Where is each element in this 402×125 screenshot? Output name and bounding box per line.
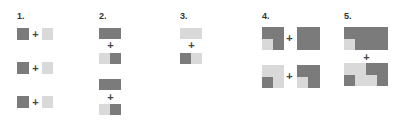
dark-right-column — [377, 75, 388, 86]
dark-half — [180, 53, 191, 64]
dark-square-with-light-corner — [262, 27, 284, 50]
mixed-rect — [344, 63, 388, 86]
light-half — [99, 104, 110, 115]
dark-bottom-left — [344, 75, 355, 86]
light-square — [42, 96, 53, 108]
plus-icon: + — [361, 52, 372, 63]
light-half — [191, 53, 202, 64]
light-square — [42, 62, 53, 74]
dark-rect — [99, 28, 121, 39]
light-rect — [180, 28, 202, 39]
plus-icon: + — [284, 71, 295, 82]
dark-square — [17, 96, 29, 108]
dark-rect — [99, 79, 121, 90]
dark-rect-with-light-corner — [344, 27, 388, 50]
dark-square — [17, 62, 29, 74]
dark-half — [110, 53, 121, 64]
light-corner — [297, 77, 308, 88]
section-3-label: 3. — [180, 11, 188, 21]
plus-icon: + — [30, 29, 41, 40]
plus-icon: + — [284, 33, 295, 44]
dark-square-with-light-corner — [297, 65, 320, 88]
dark-corner — [262, 77, 273, 88]
dark-half — [110, 104, 121, 115]
plus-icon: + — [30, 63, 41, 74]
dark-square — [17, 28, 29, 40]
section-1-label: 1. — [17, 11, 25, 21]
plus-icon: + — [186, 40, 197, 51]
dark-top-right — [366, 63, 388, 75]
light-corner — [262, 39, 273, 50]
section-2-label: 2. — [99, 11, 107, 21]
plus-icon: + — [105, 40, 116, 51]
dark-square — [297, 27, 320, 50]
light-half — [99, 53, 110, 64]
section-4-label: 4. — [262, 11, 270, 21]
light-corner — [344, 39, 355, 50]
plus-icon: + — [105, 92, 116, 103]
plus-icon: + — [30, 97, 41, 108]
light-square — [42, 28, 53, 40]
section-5-label: 5. — [344, 11, 352, 21]
light-square-with-dark-corner — [262, 65, 284, 88]
